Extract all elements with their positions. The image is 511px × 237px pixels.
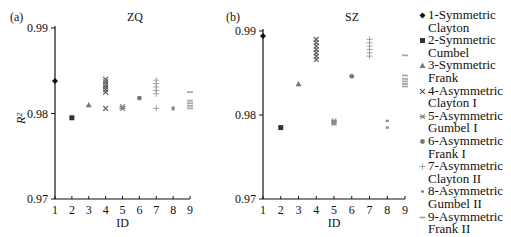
x-tick-label: 2 [69, 203, 75, 217]
bar-legend-icon [418, 213, 427, 222]
plus-legend-icon [418, 162, 427, 171]
bar-marker-icon [402, 86, 408, 88]
x-tick-label: 4 [313, 203, 319, 217]
legend-item: 4-Asymmetric Clayton I [418, 85, 511, 110]
bar-marker-icon [402, 83, 408, 85]
x-tick-label: 6 [349, 203, 355, 217]
x-tick-label: 6 [136, 203, 142, 217]
square-marker-icon [278, 125, 283, 130]
x-marker-icon [103, 85, 108, 90]
bar-marker-icon [187, 102, 193, 104]
panel-sz: 0.970.980.99123456789ID(b)SZ [226, 10, 408, 230]
circle-marker-icon [420, 139, 425, 144]
chart-title: ZQ [127, 10, 143, 24]
legend-item: 7-Asymmetric Clayton II [418, 160, 511, 185]
bar-marker-icon [402, 54, 408, 56]
x-marker-icon [420, 89, 425, 94]
x-marker-icon [314, 57, 319, 62]
bar-marker-icon [187, 107, 193, 109]
star-marker-icon [420, 114, 426, 119]
dash-marker-icon [172, 108, 175, 110]
series-x [103, 77, 108, 111]
series-star [120, 104, 126, 111]
x-tick-label: 1 [52, 203, 58, 217]
legend-item: 5-Asymmetric Gumbel I [418, 110, 511, 135]
x-tick-label: 9 [187, 203, 193, 217]
series-x [314, 37, 319, 62]
x-marker-icon [103, 79, 108, 84]
y-tick-label: 0.98 [235, 108, 256, 122]
square-marker-icon [420, 38, 425, 43]
series-diamond [52, 78, 58, 84]
x-marker-icon [103, 90, 108, 95]
x-axis-label: ID [328, 216, 341, 230]
star-legend-icon [418, 112, 427, 121]
x-tick-label: 7 [153, 203, 159, 217]
x-tick-label: 5 [331, 203, 337, 217]
legend-label: 8-Asymmetric Gumbel II [428, 185, 511, 210]
dash-marker-icon [386, 126, 389, 128]
series-circle [137, 96, 142, 101]
series-star [331, 118, 337, 125]
triangle-marker-icon [420, 63, 426, 68]
x-tick-label: 8 [170, 203, 176, 217]
legend-label: 7-Asymmetric Clayton II [428, 160, 511, 185]
legend-item: 6-Asymmetric Frank I [418, 135, 511, 160]
x-tick-label: 1 [260, 203, 266, 217]
panel-zq: 0.970.980.99123456789IDR²(a)ZQ [10, 10, 193, 230]
triangle-marker-icon [296, 81, 302, 86]
y-axis-label: R² [14, 113, 28, 125]
star-marker-icon [331, 121, 337, 126]
legend-item: 8-Asymmetric Gumbel II [418, 185, 511, 210]
legend-label: 3-Symmetric Frank [428, 59, 511, 84]
series-plus [367, 36, 373, 59]
bar-marker-icon [187, 91, 193, 93]
legend-label: 1-Symmetric Clayton [428, 9, 511, 34]
y-tick-label: 0.99 [27, 21, 48, 35]
legend-label: 6-Asymmetric Frank I [428, 135, 511, 160]
panel-label: (a) [10, 10, 23, 24]
triangle-legend-icon [418, 61, 427, 70]
bar-marker-icon [402, 81, 408, 83]
diamond-marker-icon [260, 33, 266, 39]
chart-title: SZ [345, 10, 359, 24]
y-tick-label: 0.99 [235, 24, 256, 38]
bar-marker-icon [402, 78, 408, 80]
bar-marker-icon [420, 216, 426, 218]
series-circle [349, 74, 354, 79]
dash-marker-icon [386, 120, 389, 122]
diamond-legend-icon [418, 11, 427, 20]
panel-label: (b) [226, 10, 240, 24]
y-tick-label: 0.98 [27, 107, 48, 121]
series-plus [153, 77, 159, 111]
series-dash [386, 120, 389, 129]
series-bar [402, 54, 408, 87]
legend-item: 1-Symmetric Clayton [418, 9, 511, 34]
x-tick-label: 2 [278, 203, 284, 217]
legend-label: 2-Symmetric Cumbel [428, 34, 511, 59]
legend-item: 2-Symmetric Cumbel [418, 34, 511, 59]
series-bar [187, 91, 193, 109]
legend-item: 3-Symmetric Frank [418, 59, 511, 84]
x-axis-label: ID [116, 216, 129, 230]
series-triangle [86, 102, 92, 107]
diamond-marker-icon [420, 13, 426, 19]
x-marker-icon [103, 87, 108, 92]
x-tick-label: 5 [120, 203, 126, 217]
plus-marker-icon [153, 105, 159, 111]
circle-marker-icon [349, 74, 354, 79]
legend-label: 9-Asymmetric Frank II [428, 211, 511, 236]
series-triangle [296, 81, 302, 86]
bar-marker-icon [187, 100, 193, 102]
series-square [69, 115, 74, 120]
circle-legend-icon [418, 137, 427, 146]
triangle-marker-icon [86, 102, 92, 107]
x-tick-label: 4 [103, 203, 109, 217]
dash-legend-icon [418, 187, 427, 196]
plus-marker-icon [420, 164, 426, 170]
legend-item: 9-Asymmetric Frank II [418, 211, 511, 236]
series-diamond [260, 33, 266, 39]
x-tick-label: 3 [296, 203, 302, 217]
bar-marker-icon [187, 105, 193, 107]
square-legend-icon [418, 36, 427, 45]
